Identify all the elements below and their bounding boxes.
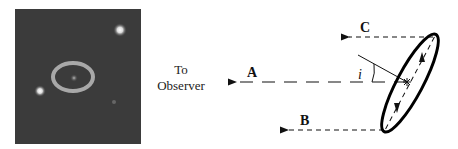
inclination-angle-label: i xyxy=(358,67,362,82)
ray-c-label: C xyxy=(360,20,370,35)
ray-b: B xyxy=(288,113,384,130)
geometry-diagram: A C B i xyxy=(0,0,458,149)
inclination-arc xyxy=(372,64,374,82)
tilted-ring xyxy=(373,28,448,137)
central-star-icon xyxy=(403,78,411,86)
ray-c: C xyxy=(349,20,433,37)
ray-b-label: B xyxy=(300,113,309,128)
ray-a-label: A xyxy=(247,65,258,80)
